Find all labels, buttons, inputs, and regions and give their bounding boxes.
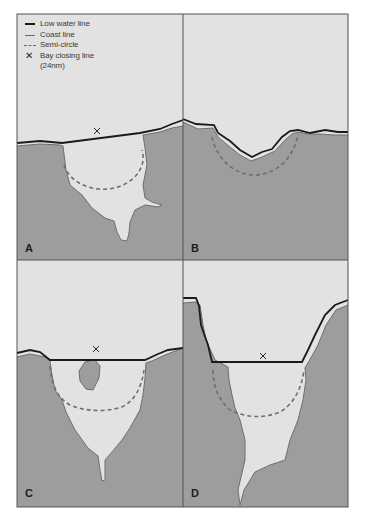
panel-b [183,14,348,260]
coast-line-swatch-icon [24,30,36,40]
legend-item-semi-circle: Semi-circle [24,40,94,51]
legend-item-bay-closing-distance: (24nm) [24,61,94,72]
legend-label: (24nm) [40,61,65,72]
legend-label: Semi-circle [40,40,78,51]
legend-item-coast-line: Coast line [24,30,94,41]
legend: Low water line Coast line Semi-circle ✕ … [24,19,94,72]
panel-label-b: B [191,242,199,254]
legend-label: Low water line [40,19,90,30]
legend-label: Bay closing line [40,51,94,62]
legend-label: Coast line [40,30,75,41]
panel-label-c: C [25,487,33,499]
panel-label-a: A [25,242,33,254]
x-mark-icon: ✕ [24,51,36,61]
bay-diagram-figure: Low water line Coast line Semi-circle ✕ … [0,0,365,523]
legend-item-bay-closing-line: ✕ Bay closing line [24,51,94,62]
panel-c [17,260,183,507]
low-water-line-swatch-icon [24,19,36,29]
semi-circle-swatch-icon [24,40,36,50]
panel-d [183,260,348,507]
legend-item-low-water-line: Low water line [24,19,94,30]
panel-label-d: D [191,487,199,499]
